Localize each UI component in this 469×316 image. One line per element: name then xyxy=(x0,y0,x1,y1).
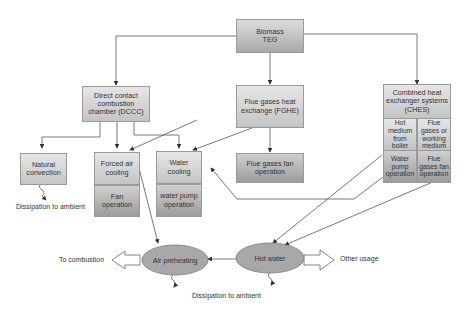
water-cooling-label: Water cooling xyxy=(158,159,200,175)
fan-operation-node: Fan operation xyxy=(94,185,140,217)
to-combustion-arrow xyxy=(112,251,140,269)
ches-flue-gases-medium-cell: Flue gases or working medium xyxy=(417,118,451,151)
dccc-label: Direct contact combustion chamber (DCCC) xyxy=(84,92,148,117)
ches-hot-medium-label: Hot medium from boiler xyxy=(385,119,415,149)
forced-air-cooling-node: Forced air cooling xyxy=(94,152,140,185)
natural-convection-node: Natural convection xyxy=(20,153,67,185)
water-pump-operation-node: water pump operation xyxy=(156,184,202,217)
ches-water-pump-cell: Water pump operation xyxy=(383,150,417,183)
water-cooling-node: Water cooling xyxy=(156,151,202,184)
ches-label: Combined heat exchanger systems (CHES) xyxy=(385,89,449,114)
natural-convection-label: Natural convection xyxy=(22,161,65,177)
other-usage-label: Other usage xyxy=(340,255,379,262)
dissipation-label-left: Dissipation to ambient xyxy=(16,203,85,210)
water-pump-operation-label: water pump operation xyxy=(158,192,200,208)
flue-gases-fan-operation-node: Flue gases fan operation xyxy=(236,153,304,183)
ches-node: Combined heat exchanger systems (CHES) xyxy=(383,84,451,119)
to-combustion-label: To combustion xyxy=(59,256,104,263)
biomass-teg-label: Biomass TEG xyxy=(253,28,287,44)
fghe-node: Flue gases heat exchange (FGHE) xyxy=(236,85,304,128)
other-usage-arrow xyxy=(304,250,334,270)
ches-flue-fan-label: Flue gases fan operation xyxy=(419,155,449,178)
fan-operation-label: Fan operation xyxy=(96,193,138,209)
forced-air-cooling-label: Forced air cooling xyxy=(96,160,138,176)
ches-water-pump-label: Water pump operation xyxy=(385,155,415,178)
ches-flue-gases-medium-label: Flue gases or working medium xyxy=(419,119,449,149)
ches-flue-fan-cell: Flue gases fan operation xyxy=(417,150,451,183)
dccc-node: Direct contact combustion chamber (DCCC) xyxy=(82,86,150,122)
fghe-label: Flue gases heat exchange (FGHE) xyxy=(238,98,302,114)
air-preheating-label: Air preheating xyxy=(142,252,208,268)
ches-hot-medium-cell: Hot medium from boiler xyxy=(383,118,417,151)
flue-gases-fan-operation-label: Flue gases fan operation xyxy=(245,160,295,176)
dissipation-label-bottom: Dissipation to ambient xyxy=(192,292,261,299)
biomass-teg-node: Biomass TEG xyxy=(236,19,304,53)
hot-water-label: Hot water xyxy=(236,250,304,266)
